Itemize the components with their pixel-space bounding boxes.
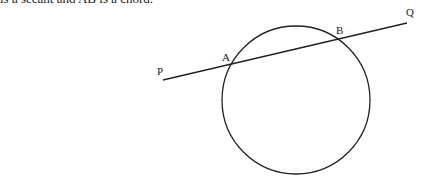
label-b: B <box>336 24 343 36</box>
label-q: Q <box>406 6 414 18</box>
label-a: A <box>222 51 230 63</box>
secant-line-pq <box>163 23 407 80</box>
label-p: P <box>157 65 163 77</box>
secant-chord-diagram: P A B Q <box>0 0 423 186</box>
